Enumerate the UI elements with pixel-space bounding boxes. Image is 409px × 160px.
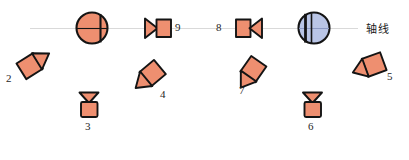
disc-valve-left [77,13,108,44]
label-valve-3: 3 [85,120,91,132]
label-valve-6: 6 [308,120,314,132]
label-valve-8: 8 [216,21,222,33]
valve-symbol-3 [80,93,99,118]
valve-diagram-svg [0,0,409,160]
label-valve-7: 7 [239,84,245,96]
valve-symbol-9 [145,19,171,39]
valve-symbol-7 [233,56,267,93]
valve-symbol-6 [303,93,322,118]
label-valve-4: 4 [160,88,166,100]
valve-symbol-5 [350,52,387,81]
disc-valve-right [299,13,330,44]
diagram-canvas: 轴线 2 3 4 5 6 7 8 9 [0,0,409,160]
axis-line-label: 轴线 [366,20,389,36]
label-valve-9: 9 [175,21,181,33]
valve-symbol-2 [16,46,54,80]
valve-symbol-8 [236,19,262,39]
label-valve-5: 5 [387,70,393,82]
label-valve-2: 2 [6,72,12,84]
